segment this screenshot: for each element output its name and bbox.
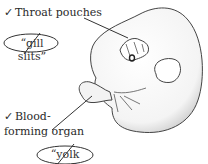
- checkmark-icon: ✓: [4, 6, 13, 19]
- yolk-sac-label: “yolk sac”: [38, 148, 92, 164]
- embryo-illustration: [0, 0, 208, 164]
- blood-label-line1: ✓Blood-: [4, 111, 51, 123]
- throat-text: Throat pouches: [15, 6, 102, 19]
- blood-text: Blood-: [15, 110, 51, 123]
- gill-slits-label: “gill slits”: [6, 37, 58, 63]
- throat-pouches-label: ✓Throat pouches: [4, 7, 102, 19]
- checkmark-icon: ✓: [4, 110, 13, 123]
- blood-label-line2: forming organ: [4, 126, 84, 138]
